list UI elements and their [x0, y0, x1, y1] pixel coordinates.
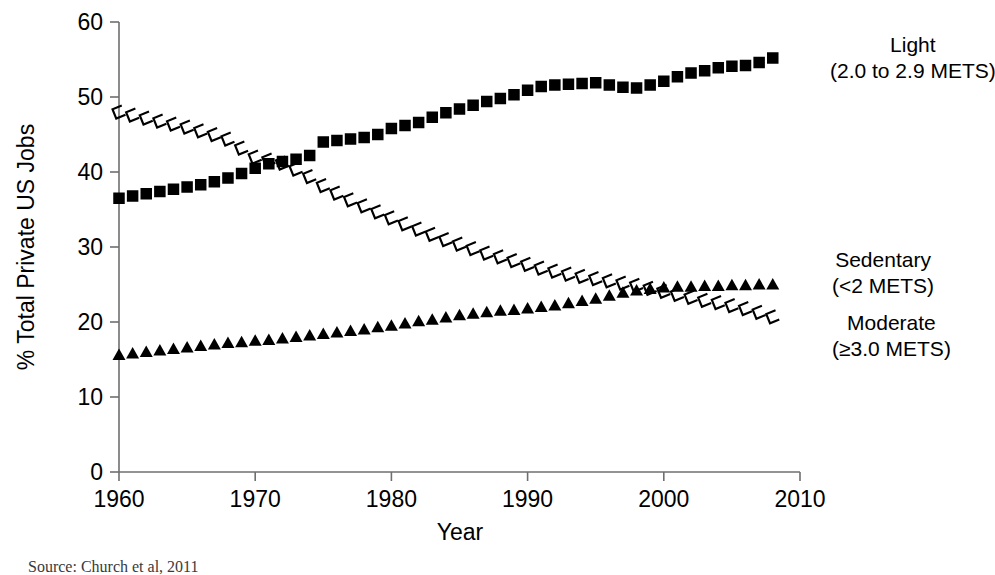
data-point-sedentary	[399, 217, 412, 230]
data-point-sedentary	[535, 261, 548, 274]
data-point-moderate	[412, 315, 425, 327]
data-point-sedentary	[439, 233, 452, 246]
legend-moderate-subtitle: (≥3.0 METS)	[832, 336, 951, 362]
legend-label-moderate: Moderate (≥3.0 METS)	[832, 310, 951, 362]
data-point-sedentary	[371, 205, 384, 218]
data-point-light	[767, 52, 779, 64]
x-axis-title: Year	[437, 519, 484, 545]
x-tick-label: 1970	[230, 486, 281, 512]
data-point-sedentary	[208, 128, 221, 141]
data-point-light	[495, 93, 507, 105]
data-point-sedentary	[344, 193, 357, 206]
data-point-light	[508, 89, 519, 101]
data-point-sedentary	[766, 310, 779, 323]
data-point-sedentary	[521, 258, 534, 271]
legend-moderate-title: Moderate	[832, 310, 951, 336]
legend-label-sedentary: Sedentary (<2 METS)	[832, 247, 934, 299]
data-point-moderate	[562, 297, 575, 309]
data-point-light	[699, 65, 711, 77]
ticks-group	[110, 22, 800, 481]
data-point-moderate	[766, 278, 779, 290]
data-point-moderate	[140, 346, 153, 358]
data-point-moderate	[616, 286, 629, 298]
data-point-sedentary	[698, 294, 711, 307]
data-point-moderate	[507, 304, 520, 316]
data-point-light	[195, 179, 207, 191]
data-point-moderate	[439, 311, 452, 323]
data-point-light	[358, 132, 370, 144]
data-point-light	[549, 79, 561, 91]
data-point-light	[399, 120, 411, 132]
data-point-moderate	[589, 292, 602, 304]
x-tick-label: 1990	[502, 486, 553, 512]
data-point-sedentary	[712, 296, 725, 309]
data-point-moderate	[426, 313, 439, 325]
data-point-light	[372, 129, 384, 141]
data-point-sedentary	[480, 246, 493, 259]
data-point-sedentary	[562, 267, 575, 280]
data-point-light	[685, 67, 697, 79]
data-point-moderate	[467, 307, 480, 319]
data-point-moderate	[221, 337, 234, 349]
data-point-sedentary	[358, 199, 371, 212]
data-point-sedentary	[412, 222, 425, 235]
data-point-sedentary	[235, 141, 248, 154]
data-point-light	[481, 96, 493, 108]
data-point-light	[535, 81, 547, 93]
data-point-sedentary	[685, 291, 698, 304]
data-point-light	[127, 190, 138, 202]
data-point-moderate	[753, 278, 766, 290]
data-point-moderate	[603, 289, 616, 301]
y-tick-label: 0	[90, 459, 103, 485]
legend-sedentary-subtitle: (<2 METS)	[832, 273, 934, 299]
data-point-moderate	[262, 334, 275, 346]
data-point-sedentary	[167, 117, 180, 130]
series-light	[113, 52, 778, 204]
data-point-moderate	[303, 329, 316, 341]
data-point-light	[590, 77, 602, 89]
data-point-light	[644, 79, 656, 91]
data-point-light	[631, 82, 643, 94]
data-point-sedentary	[221, 132, 234, 145]
data-point-light	[249, 163, 261, 175]
data-point-moderate	[167, 343, 180, 355]
data-point-sedentary	[494, 250, 507, 263]
data-point-light	[345, 133, 357, 145]
data-point-sedentary	[725, 299, 738, 312]
data-point-light	[604, 79, 616, 91]
data-point-light	[522, 85, 534, 97]
legend-label-light: Light (2.0 to 2.9 METS)	[830, 32, 995, 84]
data-point-light	[140, 188, 152, 200]
data-point-light	[209, 176, 221, 188]
data-point-light	[617, 82, 629, 94]
data-point-moderate	[330, 326, 343, 338]
data-point-sedentary	[548, 264, 561, 277]
data-point-light	[222, 172, 234, 184]
data-point-moderate	[698, 280, 711, 292]
data-point-light	[290, 154, 302, 166]
y-tick-label: 10	[77, 384, 103, 410]
data-point-light	[331, 135, 343, 147]
data-point-moderate	[385, 319, 398, 331]
x-tick-label: 2010	[774, 486, 825, 512]
data-point-moderate	[153, 344, 166, 356]
data-point-moderate	[317, 328, 330, 340]
data-point-sedentary	[140, 111, 153, 124]
data-point-light	[427, 112, 439, 124]
data-point-moderate	[453, 309, 466, 321]
data-point-moderate	[371, 321, 384, 333]
source-note: Source: Church et al, 2011	[28, 558, 198, 575]
data-point-moderate	[344, 325, 357, 337]
series-moderate	[113, 278, 780, 360]
data-point-moderate	[712, 280, 725, 292]
data-point-light	[236, 168, 248, 180]
data-point-light	[467, 100, 479, 112]
data-point-moderate	[358, 323, 371, 335]
data-point-moderate	[576, 295, 589, 307]
y-tick-label: 60	[77, 9, 103, 35]
data-point-light	[413, 117, 425, 129]
y-tick-label: 50	[77, 84, 103, 110]
data-point-light	[304, 150, 316, 162]
data-point-moderate	[249, 334, 262, 346]
data-point-light	[318, 136, 330, 148]
